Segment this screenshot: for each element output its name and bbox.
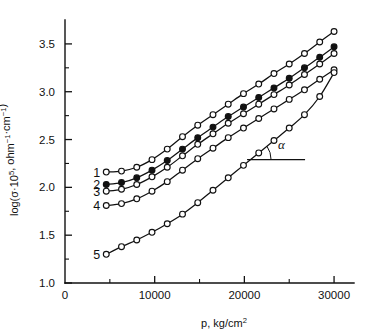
y-tick-label: 3.0 bbox=[39, 86, 55, 98]
datapoint-curve-2 bbox=[317, 54, 323, 60]
datapoint-curve-3 bbox=[241, 111, 247, 117]
x-tick-label: 10000 bbox=[139, 289, 171, 301]
y-tick-label: 1.5 bbox=[39, 229, 55, 241]
datapoint-curve-3 bbox=[225, 120, 231, 126]
y-axis-tick-labels: 1.01.52.02.53.03.5 bbox=[39, 38, 55, 289]
datapoint-curve-3 bbox=[180, 153, 186, 159]
y-exp-cm: −1 bbox=[0, 108, 8, 117]
datapoint-curve-1 bbox=[286, 61, 292, 67]
datapoint-curve-5 bbox=[271, 138, 277, 144]
datapoint-curve-1 bbox=[225, 101, 231, 107]
datapoint-curve-5 bbox=[241, 162, 247, 168]
conductivity-pressure-chart: 1.01.52.02.53.03.5 0100002000030000 1234… bbox=[0, 0, 382, 333]
x-axis-ticks bbox=[110, 276, 334, 283]
y-tick-label: 1.0 bbox=[39, 277, 55, 289]
curve-label-3: 3 bbox=[93, 185, 100, 199]
x-tick-label: 20000 bbox=[228, 289, 260, 301]
datapoint-curve-2 bbox=[302, 65, 308, 71]
datapoint-curve-2 bbox=[271, 85, 277, 91]
datapoint-curve-4 bbox=[225, 135, 231, 141]
datapoint-curve-2 bbox=[256, 95, 262, 101]
y-tick-label: 2.0 bbox=[39, 181, 55, 193]
y-axis-title: log(σ·105, ohm−1·cm−1) bbox=[0, 104, 20, 216]
datapoint-curve-3 bbox=[331, 51, 337, 57]
datapoint-curve-1 bbox=[119, 168, 125, 174]
datapoint-curve-3 bbox=[134, 182, 140, 188]
datapoint-curve-1 bbox=[180, 134, 186, 140]
datapoint-curve-4 bbox=[302, 87, 308, 93]
datapoint-curve-3 bbox=[302, 72, 308, 78]
datapoint-curve-1 bbox=[241, 91, 247, 97]
curve-1 bbox=[106, 31, 334, 172]
datapoint-curve-1 bbox=[149, 157, 155, 163]
alpha-symbol-label: α bbox=[278, 137, 286, 152]
datapoint-curve-5 bbox=[256, 150, 262, 156]
datapoint-curve-3 bbox=[271, 92, 277, 98]
datapoint-curve-5 bbox=[210, 187, 216, 193]
datapoint-curve-5 bbox=[225, 175, 231, 181]
datapoint-curve-5 bbox=[103, 251, 109, 257]
datapoint-curve-4 bbox=[210, 145, 216, 151]
curve-label-5: 5 bbox=[93, 248, 100, 262]
datapoint-curve-2 bbox=[164, 158, 170, 164]
datapoint-curve-1 bbox=[302, 51, 308, 57]
datapoint-curve-3 bbox=[195, 141, 201, 147]
datapoint-curve-3 bbox=[164, 164, 170, 170]
datapoint-curve-3 bbox=[317, 61, 323, 67]
datapoint-curve-2 bbox=[134, 175, 140, 181]
curve-5 bbox=[106, 73, 334, 255]
datapoint-curve-1 bbox=[195, 122, 201, 128]
datapoint-curve-4 bbox=[149, 188, 155, 194]
datapoint-curve-5 bbox=[164, 221, 170, 227]
angle-arc bbox=[267, 146, 271, 159]
datapoint-curve-4 bbox=[271, 106, 277, 112]
figure-container: 1.01.52.02.53.03.5 0100002000030000 1234… bbox=[0, 0, 382, 333]
datapoint-curve-4 bbox=[119, 201, 125, 207]
datapoint-curve-4 bbox=[134, 196, 140, 202]
datapoint-curve-4 bbox=[317, 76, 323, 82]
datapoint-curve-2 bbox=[103, 182, 109, 188]
y-exp-10-5: 5 bbox=[7, 171, 16, 175]
datapoint-curve-1 bbox=[271, 71, 277, 77]
curve-label-4: 4 bbox=[93, 199, 100, 213]
datapoint-curve-2 bbox=[225, 114, 231, 120]
datapoint-curve-2 bbox=[210, 124, 216, 130]
datapoint-curve-1 bbox=[210, 112, 216, 118]
datapoint-curve-1 bbox=[103, 169, 109, 175]
datapoint-curve-1 bbox=[134, 164, 140, 170]
curve-2 bbox=[106, 47, 334, 185]
datapoint-curve-5 bbox=[149, 229, 155, 235]
y-tick-label: 3.5 bbox=[39, 38, 55, 50]
datapoint-curve-5 bbox=[286, 125, 292, 131]
datapoint-curve-2 bbox=[241, 104, 247, 110]
datapoint-curve-3 bbox=[103, 188, 109, 194]
datapoint-curve-5 bbox=[317, 94, 323, 100]
datapoint-curve-5 bbox=[134, 237, 140, 243]
datapoint-curve-1 bbox=[164, 146, 170, 152]
datapoint-curve-4 bbox=[180, 167, 186, 173]
x-axis-tick-labels: 0100002000030000 bbox=[62, 289, 350, 301]
axes-group bbox=[65, 20, 354, 283]
datapoint-curve-2 bbox=[195, 135, 201, 141]
datapoint-curve-4 bbox=[256, 116, 262, 122]
datapoint-curve-3 bbox=[119, 186, 125, 192]
datapoint-curve-3 bbox=[286, 82, 292, 88]
datapoint-curve-3 bbox=[210, 131, 216, 137]
datapoint-curve-2 bbox=[286, 75, 292, 81]
x-tick-label: 30000 bbox=[318, 289, 350, 301]
datapoint-curve-3 bbox=[256, 101, 262, 107]
datapoint-curve-1 bbox=[317, 39, 323, 45]
datapoint-curve-2 bbox=[331, 44, 337, 50]
datapoint-curve-2 bbox=[180, 146, 186, 152]
curve-number-labels: 12345 bbox=[93, 166, 100, 262]
y-tick-label: 2.5 bbox=[39, 134, 55, 146]
datapoint-curve-5 bbox=[180, 211, 186, 217]
datapoint-curve-4 bbox=[103, 203, 109, 209]
datapoint-curve-2 bbox=[149, 167, 155, 173]
datapoint-curve-4 bbox=[241, 125, 247, 131]
datapoint-curve-3 bbox=[149, 174, 155, 180]
datapoint-curve-2 bbox=[119, 180, 125, 186]
datapoint-curve-4 bbox=[164, 179, 170, 185]
datapoint-curve-4 bbox=[286, 96, 292, 102]
datapoint-curve-5 bbox=[195, 200, 201, 206]
